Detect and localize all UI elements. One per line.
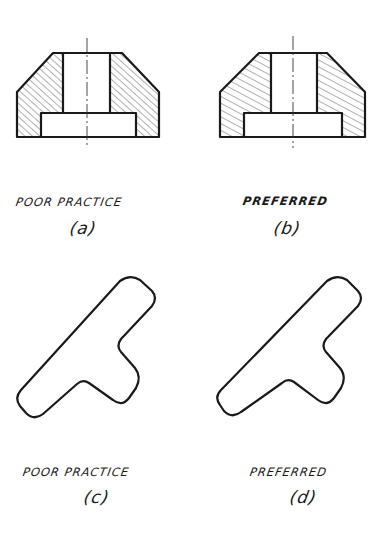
panel-a-caption: POOR PRACTICE <box>15 195 124 209</box>
panel-c-t-section <box>17 277 155 417</box>
panel-a-bore <box>63 53 110 113</box>
panel-b-sub-label: (b) <box>272 218 303 238</box>
panel-d-t-section <box>217 277 361 415</box>
panel-a-sub-label: (a) <box>68 218 98 238</box>
section-lining-figure <box>0 0 376 536</box>
panel-a-drawing <box>17 38 159 148</box>
panel-d-drawing <box>217 277 361 415</box>
panel-c-drawing <box>17 277 155 417</box>
panel-a-counterbore <box>41 113 136 137</box>
panel-d-sub-label: (d) <box>288 487 319 507</box>
panel-c-caption: POOR PRACTICE <box>22 465 131 479</box>
panel-b-drawing <box>220 36 365 148</box>
panel-b-bore <box>271 53 317 113</box>
panel-d-caption: PREFERRED <box>249 465 329 479</box>
panel-b-caption: PREFERRED <box>242 194 329 208</box>
panel-c-sub-label: (c) <box>82 487 111 507</box>
